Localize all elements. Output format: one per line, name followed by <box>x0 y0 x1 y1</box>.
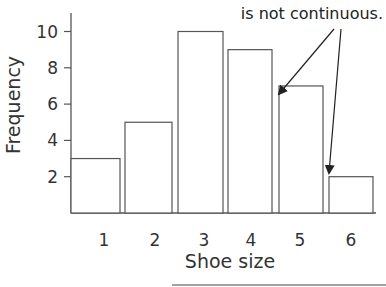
y-ticks: 246810 <box>36 22 71 187</box>
bar-size-1 <box>71 159 120 213</box>
bar-size-2 <box>125 122 172 213</box>
y-tick-label: 6 <box>47 94 58 114</box>
bar-size-3 <box>178 32 223 214</box>
annotation-arrow-2 <box>329 29 341 173</box>
bar-size-6 <box>329 177 373 213</box>
x-tick-label: 6 <box>346 230 357 250</box>
x-tick-labels: 123456 <box>99 230 357 250</box>
y-axis-title: Frequency <box>2 56 24 154</box>
x-axis-title: Shoe size <box>185 250 275 272</box>
histogram-chart: 246810 123456 Frequency Shoe size is not… <box>0 0 386 287</box>
annotation-arrow-1 <box>279 29 334 94</box>
bar-size-5 <box>279 86 323 213</box>
annotation-text: is not continuous. <box>241 4 383 23</box>
x-tick-label: 5 <box>295 230 306 250</box>
x-tick-label: 4 <box>246 230 257 250</box>
y-tick-label: 8 <box>47 58 58 78</box>
bar-size-4 <box>228 50 272 213</box>
bars <box>71 32 373 214</box>
x-tick-label: 3 <box>199 230 210 250</box>
x-tick-label: 2 <box>150 230 161 250</box>
y-tick-label: 2 <box>47 167 58 187</box>
x-tick-label: 1 <box>99 230 110 250</box>
y-tick-label: 10 <box>36 22 58 42</box>
y-tick-label: 4 <box>47 130 58 150</box>
